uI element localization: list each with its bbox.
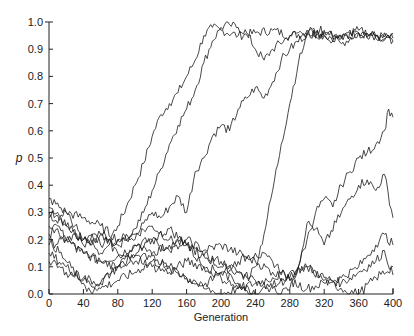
- x-tick-label: 0: [46, 297, 52, 309]
- x-tick-label: 400: [384, 297, 402, 309]
- y-tick-label: 0.8: [28, 70, 43, 82]
- trajectory-6: [49, 174, 393, 281]
- y-axis-title: p: [15, 151, 23, 165]
- x-tick-label: 240: [246, 297, 264, 309]
- y-tick-label: 0.2: [28, 234, 43, 246]
- axes: [45, 22, 393, 294]
- trajectory-lines: [49, 22, 393, 294]
- y-tick-label: 0.7: [28, 98, 43, 110]
- x-tick-label: 320: [315, 297, 333, 309]
- x-tick-label: 160: [177, 297, 195, 309]
- trajectory-1: [49, 24, 393, 248]
- y-tick-label: 0.0: [28, 288, 43, 300]
- y-tick-label: 0.9: [28, 43, 43, 55]
- x-tick-label: 360: [349, 297, 367, 309]
- y-tick-label: 0.3: [28, 206, 43, 218]
- trajectory-3: [49, 26, 393, 255]
- x-tick-label: 120: [143, 297, 161, 309]
- x-tick-label: 280: [281, 297, 299, 309]
- y-tick-label: 0.4: [28, 179, 43, 191]
- x-axis-title: Generation: [194, 311, 248, 323]
- y-tick-label: 0.1: [28, 261, 43, 273]
- trajectory-4: [49, 27, 393, 280]
- x-tick-label: 80: [112, 297, 124, 309]
- trajectory-5: [49, 109, 393, 294]
- y-tick-label: 0.6: [28, 125, 43, 137]
- x-tick-label: 200: [212, 297, 230, 309]
- y-tick-label: 0.5: [28, 152, 43, 164]
- y-tick-label: 1.0: [28, 16, 43, 28]
- x-tick-label: 40: [77, 297, 89, 309]
- allele-frequency-chart: 04080120160200240280320360400 0.00.10.20…: [0, 0, 414, 336]
- x-axis-ticks: 04080120160200240280320360400: [46, 289, 402, 309]
